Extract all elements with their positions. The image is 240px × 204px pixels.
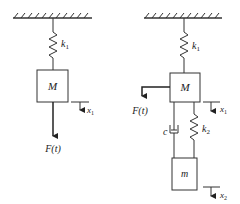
disp-x2-marker <box>203 187 220 196</box>
force-label-left: F(t) <box>44 143 61 155</box>
right-figure: k1 M F(t) x1 c k2 m x2 <box>131 13 227 201</box>
force-label-right: F(t) <box>131 105 148 117</box>
ceiling-right <box>144 13 222 18</box>
spring-k1-right <box>180 18 188 73</box>
spring-k1-label-left: k1 <box>61 38 69 51</box>
damper-c-label: c <box>163 126 168 137</box>
disp-x1-marker-right <box>203 102 220 111</box>
disp-x1-label-right: x1 <box>219 104 227 115</box>
ceiling-left <box>13 13 92 18</box>
spring-k2-label: k2 <box>202 123 210 136</box>
mass-m-label: m <box>181 168 188 179</box>
diagram-canvas: k1 M F(t) x1 k1 M F(t) x1 <box>0 0 240 204</box>
damper-c <box>170 102 178 158</box>
spring-k1-label-right: k1 <box>192 40 200 53</box>
spring-k2 <box>190 102 198 158</box>
mass-M-label-left: M <box>47 80 58 92</box>
force-arrow-right <box>142 87 170 96</box>
left-figure: k1 M F(t) x1 <box>13 13 94 155</box>
spring-k1-left <box>49 18 57 70</box>
disp-x2-label: x2 <box>219 190 227 201</box>
mass-M-label-right: M <box>179 81 190 93</box>
disp-x1-label-left: x1 <box>86 105 94 116</box>
